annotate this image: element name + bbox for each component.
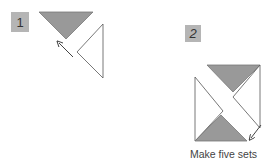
white-triangle-step1 [77, 24, 103, 78]
arrow-icon-step1 [59, 43, 73, 57]
caption: Make five sets [190, 148, 257, 160]
diagram [0, 0, 272, 161]
arrow-icon-step2 [251, 125, 261, 138]
gray-triangle-step1 [39, 12, 93, 39]
